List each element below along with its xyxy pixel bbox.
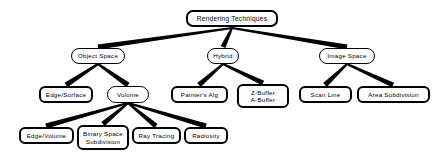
node-area-subdivision[interactable]: Area Subdivision (357, 86, 430, 103)
node-hybrid[interactable]: Hybrid (207, 48, 239, 64)
node-scan-line[interactable]: Scan Line (299, 86, 352, 103)
node-image-space[interactable]: Image Space (319, 48, 375, 64)
node-radiosity[interactable]: Radiosity (184, 127, 228, 144)
node-layer: Rendering Techniques Object Space Hybrid… (0, 0, 442, 164)
node-volume[interactable]: Volume (107, 86, 149, 103)
node-painters-alg[interactable]: Painter's Alg (171, 86, 228, 103)
node-ray-tracing[interactable]: Ray Tracing (132, 127, 181, 144)
node-z-buffer-a-buffer[interactable]: Z-Buffer A-Buffer (237, 84, 289, 108)
node-object-space[interactable]: Object Space (71, 48, 125, 64)
node-binary-space-subdivision[interactable]: Binary Space Subdivision (77, 125, 129, 150)
node-edge-volume[interactable]: Edge/Volume (19, 127, 74, 144)
rendering-techniques-diagram: Rendering Techniques Object Space Hybrid… (0, 0, 442, 164)
node-rendering-techniques[interactable]: Rendering Techniques (186, 10, 278, 27)
node-edge-surface[interactable]: Edge/Surface (39, 86, 93, 103)
